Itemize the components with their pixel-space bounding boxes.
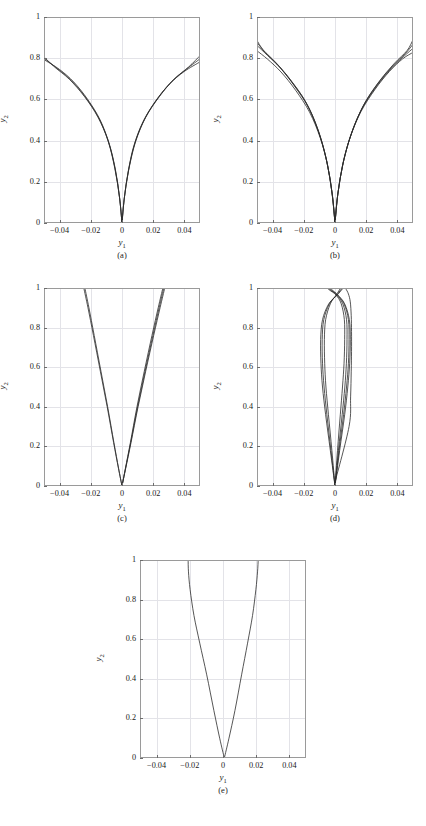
gridline-vertical bbox=[60, 289, 61, 485]
y-tick-label: 0.2 bbox=[225, 441, 253, 450]
x-axis-label-text: y1 bbox=[219, 772, 226, 782]
y-tick-mark bbox=[257, 486, 260, 487]
y-tick-label: 0.4 bbox=[225, 136, 253, 145]
x-axis-label-text: y1 bbox=[118, 237, 125, 247]
gridline-horizontal bbox=[141, 639, 305, 640]
x-tick-label: 0 bbox=[315, 489, 355, 498]
x-tick-label: 0.04 bbox=[164, 489, 204, 498]
curve-c5 bbox=[335, 52, 413, 223]
x-tick-label: 0.02 bbox=[133, 226, 173, 235]
y-tick-mark bbox=[44, 17, 47, 18]
y-tick-mark bbox=[44, 486, 47, 487]
x-tick-label: −0.02 bbox=[71, 489, 111, 498]
x-tick-mark bbox=[397, 220, 398, 223]
gridline-horizontal bbox=[258, 407, 412, 408]
gridline-vertical bbox=[366, 289, 367, 485]
curve-c7 bbox=[335, 44, 413, 223]
y-tick-label: 0.8 bbox=[108, 595, 136, 604]
y-tick-mark bbox=[257, 58, 260, 59]
plot-frame bbox=[44, 17, 200, 223]
gridline-horizontal bbox=[45, 182, 199, 183]
y-axis-label-subscript: 2 bbox=[2, 115, 9, 118]
y-tick-label: 0.4 bbox=[12, 136, 40, 145]
y-tick-mark bbox=[257, 182, 260, 183]
gridline-horizontal bbox=[258, 367, 412, 368]
curve-group bbox=[0, 0, 426, 826]
gridline-horizontal bbox=[45, 367, 199, 368]
y-tick-mark bbox=[257, 141, 260, 142]
y-tick-mark bbox=[44, 446, 47, 447]
gridline-horizontal bbox=[45, 328, 199, 329]
x-tick-mark bbox=[60, 483, 61, 486]
y-tick-label: 1 bbox=[225, 283, 253, 292]
gridline-horizontal bbox=[45, 58, 199, 59]
x-tick-label: 0 bbox=[102, 226, 142, 235]
y-tick-label: 0 bbox=[225, 218, 253, 227]
gridline-vertical bbox=[273, 289, 274, 485]
gridline-vertical bbox=[335, 18, 336, 222]
x-axis-label-subscript: 1 bbox=[223, 777, 226, 784]
gridline-vertical bbox=[304, 18, 305, 222]
y-axis-label-text: y2 bbox=[93, 654, 103, 661]
gridline-vertical bbox=[366, 18, 367, 222]
x-tick-mark bbox=[397, 483, 398, 486]
gridline-vertical bbox=[273, 18, 274, 222]
gridline-vertical bbox=[122, 289, 123, 485]
gridline-horizontal bbox=[258, 182, 412, 183]
y-axis-label-text: y2 bbox=[0, 115, 7, 122]
x-tick-label: 0.02 bbox=[346, 226, 386, 235]
subplot-a: −0.04−0.0200.020.0400.20.40.60.81y1y2(a) bbox=[0, 0, 426, 826]
x-tick-label: 0.04 bbox=[377, 489, 417, 498]
x-tick-mark bbox=[273, 220, 274, 223]
y-tick-mark bbox=[44, 99, 47, 100]
x-tick-mark bbox=[335, 483, 336, 486]
x-axis-label: y1 bbox=[102, 237, 142, 249]
x-tick-mark bbox=[273, 483, 274, 486]
subplot-d: −0.04−0.0200.020.0400.20.40.60.81y1y2(d) bbox=[0, 0, 426, 826]
plot-frame bbox=[257, 17, 413, 223]
y-tick-label: 0.6 bbox=[225, 362, 253, 371]
x-tick-label: −0.04 bbox=[40, 489, 80, 498]
gridline-vertical bbox=[184, 18, 185, 222]
x-tick-label: −0.04 bbox=[40, 226, 80, 235]
x-tick-label: 0.04 bbox=[164, 226, 204, 235]
y-tick-label: 0.2 bbox=[225, 177, 253, 186]
y-tick-mark bbox=[44, 288, 47, 289]
curve-c2 bbox=[322, 288, 342, 486]
x-tick-label: 0 bbox=[102, 489, 142, 498]
curve-group bbox=[0, 0, 426, 826]
y-axis-label-text: y2 bbox=[210, 382, 220, 389]
curve-c5 bbox=[122, 288, 165, 486]
y-axis-label: y2 bbox=[0, 371, 9, 401]
gridline-vertical bbox=[289, 561, 290, 757]
gridline-vertical bbox=[304, 289, 305, 485]
gridline-horizontal bbox=[45, 141, 199, 142]
gridline-vertical bbox=[122, 18, 123, 222]
curve-group bbox=[0, 0, 426, 826]
subplot-caption: (c) bbox=[102, 513, 142, 523]
y-tick-mark bbox=[140, 560, 143, 561]
x-tick-mark bbox=[184, 483, 185, 486]
y-tick-mark bbox=[44, 182, 47, 183]
y-tick-label: 0.8 bbox=[225, 53, 253, 62]
x-tick-label: 0 bbox=[315, 226, 355, 235]
x-tick-label: 0.04 bbox=[269, 761, 309, 770]
x-tick-mark bbox=[223, 755, 224, 758]
gridline-vertical bbox=[184, 289, 185, 485]
x-axis-label-text: y1 bbox=[331, 237, 338, 247]
y-tick-mark bbox=[140, 679, 143, 680]
y-tick-label: 0.4 bbox=[225, 402, 253, 411]
curve-group bbox=[0, 0, 426, 826]
x-tick-label: −0.02 bbox=[170, 761, 210, 770]
curve-c3 bbox=[122, 288, 163, 486]
y-tick-mark bbox=[140, 718, 143, 719]
y-tick-mark bbox=[257, 223, 260, 224]
x-axis-label-subscript: 1 bbox=[122, 242, 125, 249]
x-tick-label: 0.02 bbox=[133, 489, 173, 498]
x-tick-mark bbox=[60, 220, 61, 223]
x-tick-label: 0.02 bbox=[236, 761, 276, 770]
gridline-horizontal bbox=[258, 446, 412, 447]
y-tick-label: 0.8 bbox=[12, 53, 40, 62]
x-tick-mark bbox=[91, 220, 92, 223]
x-axis-label-subscript: 1 bbox=[335, 242, 338, 249]
